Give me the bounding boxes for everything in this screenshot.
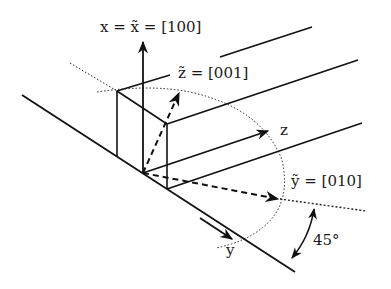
angle-label: 45° [313, 233, 340, 248]
parallel-line-3 [143, 131, 268, 173]
angle-arc-45 [292, 209, 314, 258]
box-edge-top [117, 91, 167, 124]
y-tilde-label: ỹ = [010] [291, 174, 362, 189]
z-tilde-label: z̃ = [001] [178, 66, 248, 81]
x-axis-label: x = x̃ = [100] [100, 20, 201, 35]
rotation-arc-dotted [97, 88, 285, 248]
diagram-canvas: x = x̃ = [100] z̃ = [001] z ỹ = [010] y … [0, 0, 391, 289]
y-axis-label: y [226, 243, 234, 258]
z-axis-label: z [280, 123, 288, 138]
dotted-extension-line [70, 63, 117, 91]
parallel-line-1 [220, 27, 312, 57]
y-tilde-dotted-extension [280, 199, 366, 211]
z-tilde-arrow [143, 93, 179, 173]
